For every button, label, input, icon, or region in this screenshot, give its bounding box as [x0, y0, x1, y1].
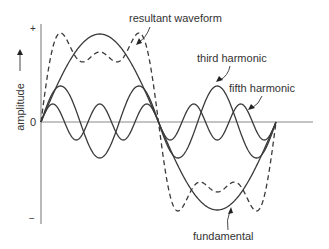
- fifth-harmonic-label: fifth harmonic: [229, 82, 296, 94]
- y-axis-plus-marker: +: [30, 23, 36, 34]
- fundamental-arrow-icon: [228, 207, 233, 214]
- y-axis-label-group: amplitude: [14, 49, 26, 131]
- y-axis-arrow-icon: [17, 49, 23, 55]
- fifth-harmonic-arrow-icon: [248, 104, 255, 110]
- third-harmonic-arrow-icon: [216, 76, 223, 82]
- harmonics-diagram: + − 0 amplitude resultant waveform third…: [0, 0, 329, 249]
- fundamental-label: fundamental: [193, 230, 254, 242]
- resultant-leader-line: [139, 27, 150, 42]
- y-axis-minus-marker: −: [29, 213, 35, 224]
- fifth-harmonic-leader-line: [252, 96, 262, 108]
- y-axis-label: amplitude: [14, 83, 26, 131]
- resultant-arrow-icon: [136, 38, 142, 45]
- resultant-waveform-label: resultant waveform: [129, 12, 222, 24]
- third-harmonic-leader-line: [220, 66, 230, 80]
- third-harmonic-label: third harmonic: [197, 52, 267, 64]
- origin-label: 0: [30, 116, 36, 128]
